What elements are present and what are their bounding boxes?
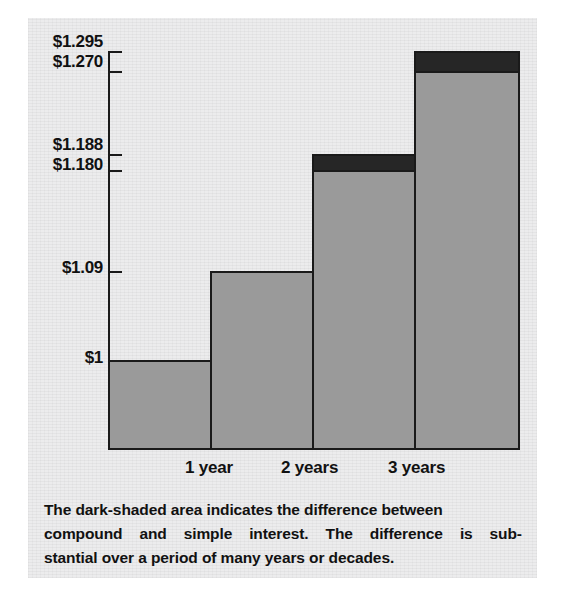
bar-3-years[interactable] xyxy=(414,71,520,450)
caption-word: The xyxy=(326,522,353,546)
caption-word: simple xyxy=(184,522,233,546)
caption-line-1: The dark-shaded area indicates the diffe… xyxy=(44,498,522,522)
y-tick-mark-1188 xyxy=(109,154,122,156)
caption-word: and xyxy=(139,522,166,546)
y-tick-mark-1295 xyxy=(109,51,122,53)
caption-word: is xyxy=(460,522,473,546)
bar-2-years-compound-diff[interactable] xyxy=(312,154,416,172)
x-tick-label-2-years: 2 years xyxy=(281,458,338,478)
bar-principal[interactable] xyxy=(108,360,212,450)
y-tick-label-109: $1.09 xyxy=(62,258,103,278)
caption-word: interest. xyxy=(249,522,308,546)
x-tick-label-1-year: 1 year xyxy=(185,458,233,478)
y-tick-label-1180: $1.180 xyxy=(53,155,103,175)
plot-area xyxy=(108,40,520,450)
x-tick-label-3-years: 3 years xyxy=(388,458,445,478)
caption-line-2: compound and simple interest. The differ… xyxy=(44,522,522,546)
y-tick-mark-1270 xyxy=(109,71,122,73)
y-tick-label-1: $1 xyxy=(85,348,103,368)
caption-word: sub- xyxy=(490,522,522,546)
y-tick-mark-109 xyxy=(109,271,122,273)
y-tick-label-1188: $1.188 xyxy=(53,135,103,155)
caption-line-3: stantial over a period of many years or … xyxy=(44,546,522,570)
y-tick-label-1295: $1.295 xyxy=(53,32,103,52)
bar-3-years-compound-diff[interactable] xyxy=(414,51,520,73)
figure-caption: The dark-shaded area indicates the diffe… xyxy=(44,498,522,570)
caption-word: difference xyxy=(370,522,443,546)
y-tick-label-1270: $1.270 xyxy=(53,52,103,72)
bar-2-years[interactable] xyxy=(312,170,416,450)
bar-1-year[interactable] xyxy=(210,271,314,450)
chart-figure: $1.295 $1.270 $1.188 $1.180 $1.09 $1 1 y… xyxy=(0,0,561,610)
y-tick-mark-1180 xyxy=(109,170,122,172)
caption-word: compound xyxy=(44,522,122,546)
